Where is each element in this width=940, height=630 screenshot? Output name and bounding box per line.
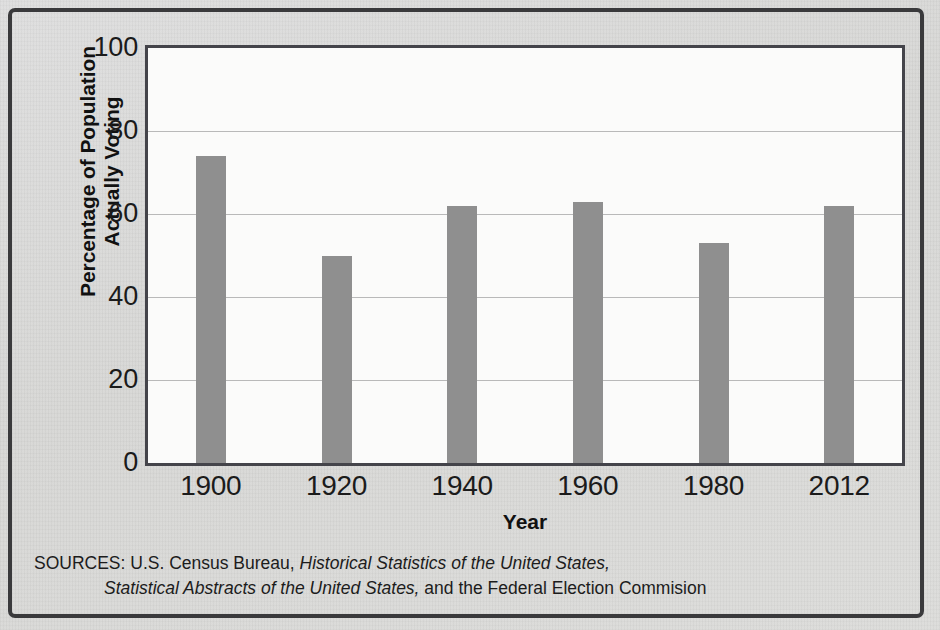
plot-area	[145, 45, 905, 466]
bar-1960	[573, 202, 603, 463]
x-tick-label-1920: 1920	[287, 472, 387, 500]
bar-1980	[699, 243, 729, 463]
y-axis-ticks: 020406080100	[58, 45, 138, 466]
x-tick-label-1900: 1900	[161, 472, 261, 500]
source-label: SOURCES:	[34, 553, 125, 573]
source-line-1-plain: U.S. Census Bureau,	[125, 553, 299, 573]
y-tick-label-0: 0	[66, 449, 138, 476]
x-tick-label-1940: 1940	[412, 472, 512, 500]
source-note: SOURCES: U.S. Census Bureau, Historical …	[34, 551, 894, 602]
gridline	[148, 297, 902, 298]
bar-1900	[196, 156, 226, 463]
x-axis-title: Year	[145, 510, 905, 534]
source-line-2-italic: Statistical Abstracts of the United Stat…	[104, 578, 419, 598]
bar-1940	[447, 206, 477, 463]
figure-container: Percentage of Population Actually Voting…	[0, 0, 940, 630]
x-tick-label-1960: 1960	[538, 472, 638, 500]
x-tick-label-1980: 1980	[664, 472, 764, 500]
x-tick-label-2012: 2012	[789, 472, 889, 500]
y-tick-label-60: 60	[66, 200, 138, 227]
gridline	[148, 380, 902, 381]
source-line-1-italic: Historical Statistics of the United Stat…	[300, 553, 610, 573]
bar-2012	[824, 206, 854, 463]
y-tick-label-20: 20	[66, 366, 138, 393]
x-axis-ticks: 190019201940196019802012	[145, 472, 905, 512]
y-tick-label-40: 40	[66, 283, 138, 310]
gridline	[148, 214, 902, 215]
y-tick-label-80: 80	[66, 117, 138, 144]
source-line-2-plain: and the Federal Election Commision	[419, 578, 706, 598]
source-line-2: Statistical Abstracts of the United Stat…	[34, 576, 894, 601]
source-line-1: SOURCES: U.S. Census Bureau, Historical …	[34, 551, 894, 576]
gridline	[148, 131, 902, 132]
bar-1920	[322, 256, 352, 464]
y-tick-label-100: 100	[66, 34, 138, 61]
plot-inner	[148, 48, 902, 463]
